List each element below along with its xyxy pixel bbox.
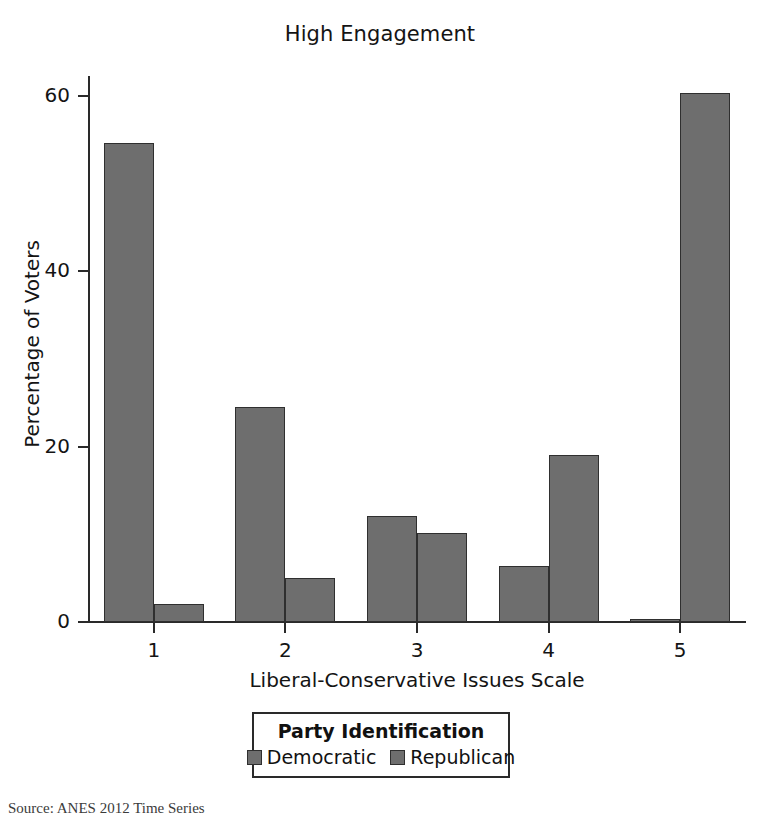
source-note: Source: ANES 2012 Time Series (8, 800, 748, 816)
x-axis-tick-label: 5 (650, 638, 710, 662)
legend: Party Identification DemocraticRepublica… (252, 712, 510, 778)
y-axis-tick-label: 20 (10, 434, 70, 458)
y-axis-tick-label: 0 (10, 609, 70, 633)
bar-democratic-2 (235, 407, 285, 622)
x-axis-tick (548, 622, 550, 633)
bar-republican-5 (680, 93, 730, 622)
bar-republican-1 (154, 604, 204, 622)
y-axis-tick-label: 40 (10, 258, 70, 282)
bar-republican-2 (285, 578, 335, 622)
bar-democratic-3 (367, 516, 417, 622)
y-axis-tick-label: 60 (10, 83, 70, 107)
x-axis-title: Liberal-Conservative Issues Scale (88, 668, 746, 692)
x-axis-tick-label: 1 (124, 638, 184, 662)
legend-entry-label: Democratic (267, 746, 377, 768)
x-axis-tick-label: 3 (387, 638, 447, 662)
bar-democratic-4 (499, 566, 549, 622)
x-axis-tick (416, 622, 418, 633)
bar-republican-4 (549, 455, 599, 622)
chart-title: High Engagement (0, 22, 760, 46)
x-axis-tick (153, 622, 155, 633)
x-axis-tick-label: 4 (519, 638, 579, 662)
legend-entry-democratic: Democratic (247, 746, 377, 768)
bar-republican-3 (417, 533, 467, 622)
bar-chart-figure: High Engagement Percentage of Voters Lib… (0, 0, 760, 816)
legend-entries: DemocraticRepublican (264, 746, 498, 768)
legend-entry-label: Republican (410, 746, 515, 768)
x-axis-tick-label: 2 (255, 638, 315, 662)
bar-democratic-1 (104, 143, 154, 622)
legend-entry-republican: Republican (390, 746, 515, 768)
y-axis-title: Percentage of Voters (20, 84, 44, 604)
bar-democratic-5 (630, 619, 680, 622)
x-axis-tick (284, 622, 286, 633)
legend-swatch-icon (247, 750, 262, 765)
x-axis-tick (679, 622, 681, 633)
plot-area (88, 96, 746, 622)
legend-title: Party Identification (264, 720, 498, 742)
legend-swatch-icon (390, 750, 405, 765)
